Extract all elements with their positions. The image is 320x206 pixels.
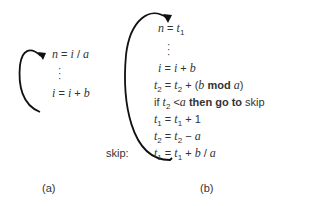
a-line-n-assign: n = i / a — [52, 48, 89, 60]
b-line-t1-add: t1 = t1 + b / a — [154, 147, 216, 164]
b-line-t1-inc: t1 = t1 + 1 — [154, 113, 201, 130]
b-line-t2-mod: t2 = t2 + (b mod a) — [154, 79, 243, 96]
b-ellipsis: ··· — [167, 42, 170, 57]
b-label-skip: skip: — [106, 147, 129, 159]
caption-a: (a) — [42, 182, 55, 194]
b-line-i-increment: i = i + b — [158, 62, 196, 74]
caption-b: (b) — [200, 182, 213, 194]
a-ellipsis: ··· — [58, 66, 61, 81]
b-line-n-assign: n = t1 — [158, 22, 184, 39]
b-line-t2-sub: t2 = t2 − a — [154, 130, 201, 147]
a-line-i-increment: i = i + b — [52, 87, 90, 99]
b-line-if-goto: if t2 <a then go to skip — [154, 96, 265, 113]
